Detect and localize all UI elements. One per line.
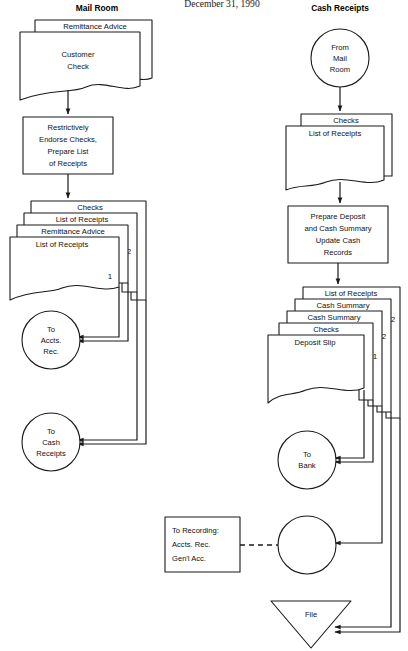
label-to-cash-line2: Cash <box>42 438 60 447</box>
label-endorse-line2: Endorse Checks, <box>39 135 97 144</box>
column-heading-cash-receipts: Cash Receipts <box>311 3 369 13</box>
node-endorse-checks-process: Restrictively Endorse Checks, Prepare Li… <box>23 117 113 174</box>
label-to-accts-line3: Rec. <box>43 347 59 356</box>
page-date-heading: December 31, 1990 <box>184 0 260 9</box>
label-customer-check-line2: Check <box>67 62 89 71</box>
label-cr-s4: Cash Summary <box>317 301 370 310</box>
label-cr-checks: Checks <box>333 116 359 125</box>
label-from-mail-line2: Mail <box>333 54 347 63</box>
label-customer-check-line1: Customer <box>62 50 95 59</box>
node-to-bank-connector: To Bank <box>278 431 336 489</box>
label-stack-copy-1: 1 <box>108 272 113 281</box>
node-customer-check-doc: Customer Check <box>20 32 140 100</box>
label-from-mail-line1: From <box>331 43 349 52</box>
node-file-symbol: File <box>271 601 351 648</box>
label-cr-s2: Checks <box>313 325 339 334</box>
label-prepare-line3: Update Cash <box>316 236 360 245</box>
label-to-accts-line2: Accts. <box>41 336 62 345</box>
edge-cash-summary-to-connector <box>335 406 382 543</box>
label-recording-line1: To Recording: <box>172 526 219 535</box>
label-cr-s3: Cash Summary <box>308 313 361 322</box>
node-to-accts-rec-connector: To Accts. Rec. <box>22 311 80 369</box>
flowchart-canvas: December 31, 1990 Mail Room Cash Receipt… <box>0 0 408 651</box>
label-stack-checks: Checks <box>77 203 103 212</box>
label-to-accts-line1: To <box>47 325 55 334</box>
label-file: File <box>305 610 317 619</box>
label-endorse-line4: of Receipts <box>49 159 87 168</box>
label-remittance-advice: Remittance Advice <box>63 22 127 31</box>
edge-sheet2-to-accts-rec <box>78 283 128 341</box>
label-stack-remittance-advice: Remittance Advice <box>41 227 105 236</box>
label-cr-s1: Deposit Slip <box>294 338 335 347</box>
node-from-mail-room-connector: From Mail Room <box>311 29 369 87</box>
label-endorse-line3: Prepare List <box>48 147 90 156</box>
node-mailroom-doc-stack: Checks List of Receipts 2 Remittance Adv… <box>10 201 146 300</box>
label-to-cash-line1: To <box>47 427 55 436</box>
label-prepare-line1: Prepare Deposit <box>311 212 367 221</box>
edge-checks-to-bank <box>335 400 373 462</box>
flowchart-svg: December 31, 1990 Mail Room Cash Receipt… <box>0 0 408 651</box>
label-cr-s5: List of Receipts <box>325 289 378 298</box>
label-recording-line3: Gen'l Acc. <box>172 554 206 563</box>
node-cr-incoming-docs: Checks List of Receipts <box>286 114 392 190</box>
edge-list-receipts-to-file <box>335 418 400 632</box>
label-to-cash-line3: Receipts <box>36 449 66 458</box>
label-stack-list-receipts-2: List of Receipts <box>56 215 109 224</box>
node-cr-doc-stack: List of Receipts 2 Cash Summary 2 Cash S… <box>268 287 400 418</box>
label-prepare-line4: Records <box>324 248 352 257</box>
label-stack-list-receipts-1: List of Receipts <box>36 240 89 249</box>
label-cr-copy-1: 1 <box>373 352 378 361</box>
label-cr-list-receipts: List of Receipts <box>309 129 362 138</box>
edge-sheet1-to-accts-rec <box>78 287 119 337</box>
label-recording-line2: Accts. Rec. <box>172 540 210 549</box>
label-endorse-line1: Restrictively <box>48 123 89 132</box>
node-to-recording-process: To Recording: Accts. Rec. Gen'l Acc. <box>165 517 240 572</box>
column-heading-mail-room: Mail Room <box>76 3 118 13</box>
label-to-bank-line1: To <box>303 450 311 459</box>
label-to-bank-line2: Bank <box>298 461 316 470</box>
node-blank-connector <box>278 516 336 574</box>
label-from-mail-line3: Room <box>330 65 350 74</box>
edge-sheet4-to-cash-receipts <box>78 300 146 444</box>
node-to-cash-receipts-connector: To Cash Receipts <box>22 413 80 471</box>
node-prepare-deposit-process: Prepare Deposit and Cash Summary Update … <box>288 206 388 263</box>
label-prepare-line2: and Cash Summary <box>304 224 371 233</box>
